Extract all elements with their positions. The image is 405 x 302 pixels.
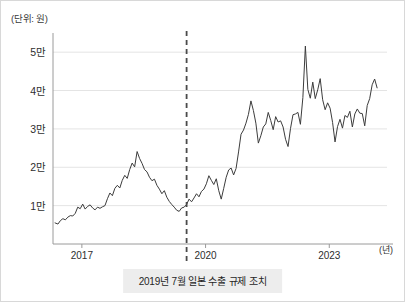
chart-figure: (단위: 원) 1만2만3만4만5만 201720202023 (년) 2019… [0, 0, 405, 302]
x-axis-tick-label: 2023 [318, 250, 341, 261]
y-axis-tick-labels: 1만2만3만4만5만 [30, 46, 46, 211]
y-axis-tick-label: 1만 [30, 200, 46, 212]
event-caption-box: 2019년 7월 일본 수출 규제 조치 [123, 269, 283, 293]
y-axis-tick-label: 5만 [30, 46, 46, 58]
x-axis-unit-label: (년) [379, 245, 393, 255]
y-axis-tick-label: 2만 [30, 161, 46, 173]
y-axis-tick-label: 4만 [30, 85, 46, 97]
y-axis-tick-label: 3만 [30, 123, 46, 135]
x-axis-tick-marks [82, 244, 329, 248]
x-axis-tick-labels: 201720202023 [71, 250, 341, 261]
x-axis-tick-label: 2017 [71, 250, 94, 261]
line-chart-plot: 1만2만3만4만5만 201720202023 (년) [1, 1, 405, 302]
price-series-line [55, 46, 377, 224]
x-axis-tick-label: 2020 [194, 250, 217, 261]
